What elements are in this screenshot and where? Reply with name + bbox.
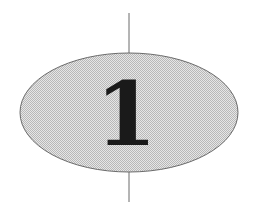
diagram-canvas: 1 [0, 0, 256, 202]
step-number-label: 1 [95, 62, 156, 166]
